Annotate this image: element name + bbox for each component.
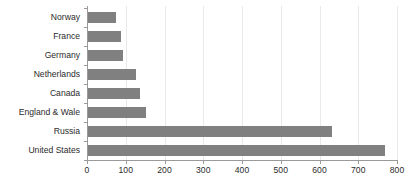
value-tick-label: 200	[157, 165, 172, 175]
category-label: Russia	[54, 126, 80, 136]
bar	[87, 12, 116, 23]
chart-canvas: NorwayFranceGermanyNetherlandsCanadaEngl…	[0, 0, 416, 190]
bar	[87, 31, 121, 42]
category-label: France	[53, 31, 80, 41]
value-tick-label: 500	[274, 165, 289, 175]
bar	[87, 88, 140, 99]
bar	[87, 126, 332, 137]
value-tick-label: 700	[351, 165, 366, 175]
bar	[87, 145, 385, 156]
value-tick-label: 400	[235, 165, 250, 175]
value-tick-label: 600	[312, 165, 327, 175]
value-tick-label: 0	[85, 165, 90, 175]
value-axis-tick-labels: 0100200300400500600700800	[85, 165, 405, 175]
value-tick-label: 100	[119, 165, 134, 175]
category-label: England & Wale	[19, 107, 81, 117]
category-label: Germany	[45, 50, 81, 60]
value-tick-label: 800	[390, 165, 405, 175]
bar	[87, 107, 146, 118]
category-label: United States	[28, 145, 80, 155]
bar	[87, 69, 136, 80]
category-label: Canada	[50, 88, 80, 98]
value-tick-label: 300	[196, 165, 211, 175]
bar	[87, 50, 123, 61]
bar-chart: NorwayFranceGermanyNetherlandsCanadaEngl…	[0, 0, 416, 190]
category-label: Norway	[51, 12, 81, 22]
category-label: Netherlands	[34, 69, 80, 79]
